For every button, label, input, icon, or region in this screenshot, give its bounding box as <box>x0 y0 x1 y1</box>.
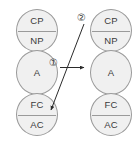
ego-state-column-left: CP NP A FC AC <box>10 0 64 141</box>
ego-state-label-np-right: NP <box>91 31 131 52</box>
ego-state-label-np-left: NP <box>17 31 57 52</box>
ego-state-label-ac-right: AC <box>91 115 131 136</box>
ego-state-adult-right[interactable]: A <box>90 50 132 95</box>
ego-state-label-ac-left: AC <box>17 115 57 136</box>
ego-state-label-a-right: A <box>91 51 131 94</box>
ego-state-parent-right[interactable]: CP NP <box>90 9 132 52</box>
transaction-label-1: ① <box>49 58 58 68</box>
ego-state-label-fc-right: FC <box>91 94 131 115</box>
ego-state-child-left[interactable]: FC AC <box>16 93 58 136</box>
ego-state-label-cp-left: CP <box>17 10 57 31</box>
transaction-label-2: ② <box>77 13 86 23</box>
ego-state-column-right: CP NP A FC AC <box>84 0 134 141</box>
ego-state-parent-left[interactable]: CP NP <box>16 9 58 52</box>
ego-state-child-right[interactable]: FC AC <box>90 93 132 136</box>
diagram-canvas: CP NP A FC AC CP NP A FC AC <box>0 0 134 141</box>
ego-state-label-cp-right: CP <box>91 10 131 31</box>
ego-state-label-fc-left: FC <box>17 94 57 115</box>
